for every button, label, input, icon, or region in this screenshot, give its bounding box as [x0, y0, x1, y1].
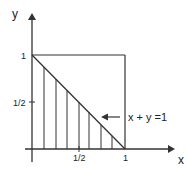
- y-axis-label: y: [12, 7, 18, 21]
- y-tick-label-1: 1: [21, 51, 26, 61]
- y-axis-arrow-icon: [28, 13, 36, 20]
- x-axis-arrow-icon: [168, 145, 175, 153]
- annotation-arrow-icon: [101, 114, 108, 121]
- equation-label: x + y =1: [128, 111, 167, 123]
- diagram-canvas: y x 1 1/2 1/2 1 x + y =1: [0, 0, 188, 172]
- x-tick-label-1: 1: [123, 153, 128, 163]
- x-axis-label: x: [178, 153, 184, 167]
- y-tick-label-half: 1/2: [13, 98, 26, 108]
- x-tick-label-half: 1/2: [73, 153, 86, 163]
- hatching: [44, 67, 112, 149]
